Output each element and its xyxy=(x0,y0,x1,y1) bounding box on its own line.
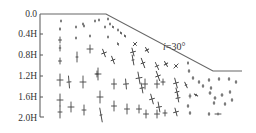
stress-cross-icon xyxy=(148,94,155,105)
slope-stress-diagram: 0.0 0.4H 0.8H 1.2H 1.6H 2.0H i=30° xyxy=(0,0,256,133)
stress-cross-icon xyxy=(108,18,109,20)
stress-cross-icon xyxy=(192,77,194,80)
stress-cross-icon xyxy=(99,19,100,21)
stress-cross-icon xyxy=(100,48,107,57)
stress-cross-icon xyxy=(137,105,142,113)
tick-label-0: 0.0 xyxy=(25,9,37,19)
stress-cross-icon xyxy=(87,45,93,53)
stress-cross-icon xyxy=(110,56,116,65)
stress-cross-icon xyxy=(110,23,111,25)
stress-cross-icon xyxy=(202,85,204,88)
stress-cross-icon xyxy=(229,91,231,94)
tick-label-5: 2.0H xyxy=(18,113,37,123)
stress-cross-icon xyxy=(187,105,189,108)
stress-cross-icon xyxy=(76,37,77,39)
tick-label-2: 0.8H xyxy=(18,50,37,60)
stress-cross-icon xyxy=(124,35,126,38)
stress-cross-icon xyxy=(187,62,188,64)
stress-cross-icon xyxy=(194,93,198,97)
stress-cross-icon xyxy=(117,43,119,46)
stress-cross-icon xyxy=(97,91,103,103)
stress-cross-icon xyxy=(208,113,210,116)
stress-cross-icon xyxy=(58,106,62,118)
stress-cross-icon xyxy=(174,88,180,97)
stress-cross-icon xyxy=(228,78,230,81)
stress-cross-icon xyxy=(215,113,221,115)
stress-cross-icon xyxy=(213,102,215,105)
stress-cross-icon xyxy=(214,97,216,100)
stress-cross-icon xyxy=(130,47,137,56)
stress-cross-icon xyxy=(105,26,106,28)
stress-cross-icon xyxy=(173,107,180,116)
stress-cross-icon xyxy=(144,110,149,118)
y-axis: 0.0 0.4H 0.8H 1.2H 1.6H 2.0H xyxy=(18,9,44,123)
stress-cross-icon xyxy=(153,62,160,71)
stress-cross-icon xyxy=(198,81,200,84)
stress-cross-icon xyxy=(59,37,62,43)
stress-cross-icon xyxy=(172,62,179,69)
stress-cross-icon xyxy=(83,23,84,25)
stress-cross-icon xyxy=(68,102,74,112)
stress-cross-icon xyxy=(59,58,62,64)
tick-label-3: 1.2H xyxy=(18,71,37,81)
stress-cross-icon xyxy=(99,108,103,122)
slope-surface xyxy=(40,14,242,71)
stress-cross-icon xyxy=(210,87,212,90)
stress-cross-icon xyxy=(125,104,130,114)
stress-cross-icon xyxy=(112,101,117,111)
stress-cross-icon xyxy=(84,25,85,27)
stress-cross-icon xyxy=(82,105,86,115)
stress-cross-icon xyxy=(235,81,237,84)
stress-cross-icon xyxy=(208,79,210,82)
tick-label-4: 1.6H xyxy=(18,92,37,102)
stress-cross-icon xyxy=(188,70,190,73)
stress-cross-icon xyxy=(163,60,169,67)
slope-angle-label: i=30° xyxy=(163,41,185,52)
stress-cross-icon xyxy=(123,79,129,89)
stress-cross-icon xyxy=(90,35,91,37)
stress-cross-icon xyxy=(163,110,167,116)
stress-cross-icon xyxy=(120,32,122,35)
stress-cross-icon xyxy=(76,26,77,28)
stress-cross-icon xyxy=(76,52,78,62)
stress-cross-icon xyxy=(132,41,138,47)
tick-label-1: 0.4H xyxy=(18,29,37,39)
stress-cross-icon xyxy=(189,94,191,98)
stress-cross-icon xyxy=(95,68,101,80)
stress-cross-icon xyxy=(155,110,160,118)
stress-cross-icon xyxy=(80,76,86,88)
stress-cross-icon xyxy=(112,26,114,28)
stress-cross-icon xyxy=(112,79,117,89)
stress-cross-icon xyxy=(154,70,162,81)
stress-cross-icon xyxy=(189,112,191,115)
stress-cross-icon xyxy=(118,29,119,31)
stress-cross-icon xyxy=(139,58,146,69)
stress-cross-icon xyxy=(131,55,135,65)
stress-cross-icon xyxy=(135,72,143,85)
stress-cross-icon xyxy=(66,76,71,88)
stress-cross-icon xyxy=(144,46,150,53)
stress-cross-icon xyxy=(108,36,109,38)
stress-cross-icon xyxy=(172,78,179,89)
stress-cross-icon xyxy=(161,79,165,85)
stress-markers xyxy=(57,18,237,122)
stress-cross-icon xyxy=(59,28,60,30)
stress-cross-icon xyxy=(57,74,63,86)
stress-cross-icon xyxy=(221,94,223,97)
stress-cross-icon xyxy=(184,82,188,88)
stress-cross-icon xyxy=(224,103,226,106)
stress-cross-icon xyxy=(59,45,61,51)
stress-cross-icon xyxy=(61,20,62,22)
stress-cross-icon xyxy=(209,92,211,95)
stress-cross-icon xyxy=(155,80,160,88)
stress-cross-icon xyxy=(95,20,96,22)
stress-cross-icon xyxy=(218,78,220,81)
stress-cross-icon xyxy=(57,94,63,106)
stress-cross-icon xyxy=(231,99,233,102)
